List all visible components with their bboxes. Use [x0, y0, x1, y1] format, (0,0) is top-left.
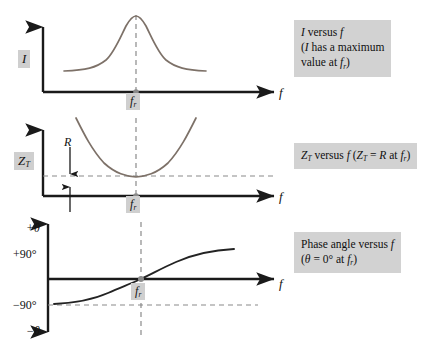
- caption-impedance: ZT versus f (ZT = R at fr): [294, 143, 417, 169]
- phase-positive-theta-label: +θ: [26, 222, 40, 234]
- caption-phase: Phase angle versus f (θ = 0° at fr): [294, 232, 401, 273]
- phase-plot: [48, 222, 274, 335]
- current-plot: [43, 15, 274, 95]
- current-axis-label: I: [18, 50, 30, 68]
- caption-current: I versus f (I has a maximum value at fr): [294, 20, 391, 77]
- caption-current-line3: value at fr): [301, 55, 384, 70]
- resonance-label-phase: fr: [131, 283, 145, 300]
- resonance-label-impedance: fr: [126, 196, 140, 213]
- caption-current-line2: (I has a maximum: [301, 40, 384, 55]
- resonance-figure: I ZT fr fr fr f f f R +θ +90° −90° −θ I …: [0, 0, 432, 354]
- current-curve: [64, 16, 206, 71]
- phase-resonance-point: [138, 276, 144, 282]
- caption-impedance-line1: ZT versus f (ZT = R at fr): [301, 148, 410, 163]
- frequency-axis-label-impedance: f: [279, 190, 283, 203]
- resistance-annotation-label: R: [64, 136, 71, 148]
- caption-phase-line2: (θ = 0° at fr): [301, 252, 394, 267]
- frequency-axis-label-phase: f: [279, 277, 283, 290]
- caption-current-line1: I versus f: [301, 25, 384, 40]
- impedance-plot: [43, 118, 274, 212]
- phase-minus90-label: −90°: [13, 299, 37, 311]
- phase-plus90-label: +90°: [13, 248, 37, 260]
- impedance-axis-label: ZT: [14, 152, 34, 170]
- frequency-axis-label-current: f: [279, 86, 283, 99]
- resonance-label-current: fr: [126, 93, 140, 110]
- phase-negative-theta-label: −θ: [26, 325, 40, 337]
- caption-phase-line1: Phase angle versus f: [301, 237, 394, 252]
